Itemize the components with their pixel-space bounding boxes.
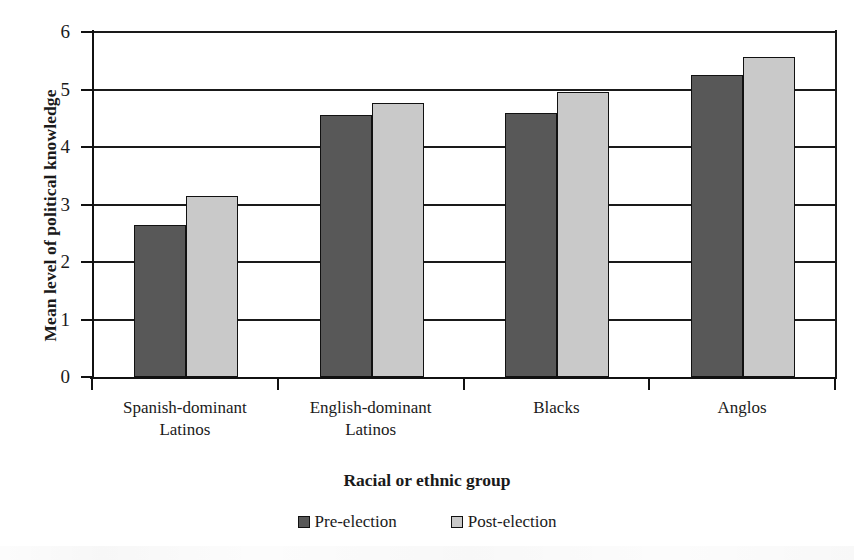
legend-label: Post-election — [468, 512, 557, 532]
plot-right-border — [835, 30, 837, 379]
bar-pre-election — [691, 75, 743, 377]
x-axis-tick — [834, 377, 836, 390]
scan-artifact — [0, 546, 854, 560]
y-axis-tick-label: 5 — [30, 80, 70, 99]
x-axis-category-label-line: Latinos — [92, 419, 278, 441]
legend-label: Pre-election — [315, 512, 397, 532]
y-axis-tick-label: 0 — [30, 367, 70, 386]
y-axis-tick-label: 3 — [30, 195, 70, 214]
x-axis-category-label: English-dominantLatinos — [278, 397, 464, 441]
x-axis-category-label-line: Anglos — [649, 397, 835, 419]
y-axis-tick — [81, 146, 92, 148]
bar-post-election — [372, 103, 424, 377]
bar-chart-figure: Mean level of political knowledge 012345… — [0, 0, 854, 560]
bar-pre-election — [505, 113, 557, 378]
y-axis-tick-label: 4 — [30, 137, 70, 156]
x-axis-category-label: Spanish-dominantLatinos — [92, 397, 278, 441]
y-axis-tick-label: 6 — [30, 22, 70, 41]
y-axis-tick — [81, 204, 92, 206]
y-axis-tick — [81, 319, 92, 321]
legend-item: Post-election — [451, 512, 557, 532]
plot-area: 0123456 — [92, 32, 835, 377]
x-axis-tick — [91, 377, 93, 390]
x-axis-category-label-line: Spanish-dominant — [92, 397, 278, 419]
legend-swatch-icon — [298, 516, 310, 528]
gridline — [92, 31, 835, 33]
y-axis-tick-label: 2 — [30, 252, 70, 271]
y-axis-tick — [81, 89, 92, 91]
bar-pre-election — [134, 225, 186, 377]
bar-pre-election — [320, 115, 372, 377]
x-axis-tick — [277, 377, 279, 390]
x-axis-title: Racial or ethnic group — [0, 470, 854, 491]
x-axis-category-label-line: Latinos — [278, 419, 464, 441]
y-axis-tick-label: 1 — [30, 310, 70, 329]
x-axis-category-label-line: Blacks — [464, 397, 650, 419]
x-axis-category-label: Anglos — [649, 397, 835, 419]
bar-post-election — [743, 57, 795, 377]
legend-item: Pre-election — [298, 512, 397, 532]
y-axis-tick — [81, 31, 92, 33]
legend-swatch-icon — [451, 516, 463, 528]
chart-legend: Pre-electionPost-election — [0, 512, 854, 532]
x-axis-tick — [648, 377, 650, 390]
y-axis-line — [92, 30, 94, 379]
bar-post-election — [186, 196, 238, 377]
x-axis-tick — [463, 377, 465, 390]
y-axis-tick — [81, 261, 92, 263]
bar-post-election — [557, 92, 609, 377]
x-axis-category-label: Blacks — [464, 397, 650, 419]
x-axis-category-label-line: English-dominant — [278, 397, 464, 419]
